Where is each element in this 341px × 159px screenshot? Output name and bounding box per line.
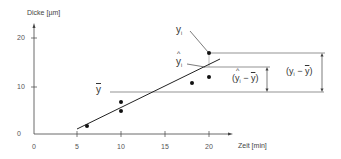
ybar-label: y: [96, 84, 101, 95]
y-tick-label: 0: [17, 130, 21, 137]
yhat-leader-line: [187, 64, 205, 67]
data-point: [119, 100, 123, 104]
x-tick-label: 5: [75, 143, 79, 150]
yhat-label: yi: [176, 56, 182, 68]
x-tick-label: 10: [117, 143, 125, 150]
data-point: [190, 81, 194, 85]
yi-leader-line: [190, 31, 208, 52]
x-axis-label: Zeit [min]: [238, 142, 267, 149]
x-tick-label: 0: [32, 143, 36, 150]
x-axis-arrow-icon: [228, 133, 233, 136]
y-axis-arrow-icon: [33, 23, 36, 28]
x-tick-label: 15: [161, 143, 169, 150]
regression-chart: Dicke [µm] Zeit [min] 0 10 20 0 5 10 15 …: [0, 0, 341, 159]
arrow-down-icon: [321, 89, 324, 93]
x-tick-label: 20: [205, 143, 213, 150]
data-point: [85, 124, 89, 128]
data-point: [119, 109, 123, 113]
y-axis-label: Dicke [µm]: [27, 9, 60, 16]
arrow-down-icon: [266, 89, 269, 93]
data-point: [207, 51, 211, 55]
yi-label: yi: [176, 24, 182, 36]
y-tick-label: 10: [17, 83, 25, 90]
arrow-up-icon: [266, 67, 269, 71]
data-point: [207, 75, 211, 79]
y-tick-label: 20: [17, 34, 25, 41]
explained-deviation-label: (yi − y): [232, 73, 258, 84]
total-deviation-label: (yi − y): [286, 66, 312, 77]
arrow-up-icon: [321, 53, 324, 57]
chart-canvas: [0, 0, 341, 159]
